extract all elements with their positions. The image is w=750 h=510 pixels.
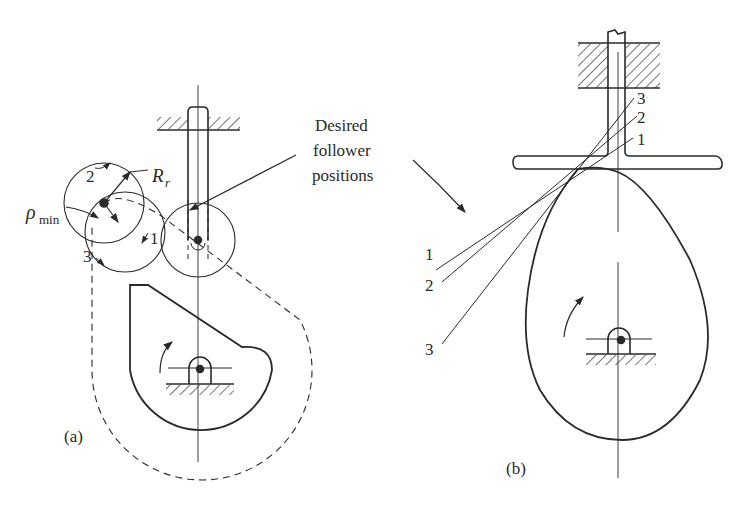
callout-leader-a — [190, 155, 296, 210]
b-left-2: 2 — [425, 276, 434, 295]
cam-pivot-b — [586, 328, 656, 365]
cam-follower-diagram: Desired follower positions (a) (b) ρ min… — [0, 0, 750, 510]
pos3-label-a: 3 — [83, 247, 92, 266]
roller-pin — [195, 237, 202, 244]
callout-line-1: Desired — [315, 116, 368, 135]
callout-line-2: follower — [313, 141, 371, 160]
pos1-label-a: 1 — [150, 229, 159, 248]
panel-a-label: (a) — [64, 427, 83, 446]
b-right-1: 1 — [637, 130, 646, 149]
rho-symbol: ρ — [25, 201, 36, 224]
tangent-line-3 — [442, 98, 634, 344]
b-right-3: 3 — [637, 89, 646, 108]
tangent-line-2 — [442, 116, 637, 282]
rr-subscript: r — [165, 175, 171, 190]
follower-guide-b — [578, 43, 660, 88]
tangent-line-1 — [436, 138, 633, 270]
rotation-arrow-b — [564, 297, 583, 337]
pos2-label-a: 2 — [86, 167, 95, 186]
panel-b-label: (b) — [506, 459, 526, 478]
callout-line-3: positions — [312, 166, 373, 185]
panel-a — [64, 85, 465, 480]
panel-b — [436, 30, 722, 478]
cam-pivot-a — [166, 357, 234, 395]
b-right-2: 2 — [637, 108, 646, 127]
callout-leader-b — [413, 160, 465, 212]
cam-profile-b — [526, 168, 708, 440]
rr-symbol: R — [151, 165, 164, 186]
rho-subscript: min — [39, 212, 60, 227]
b-left-3: 3 — [425, 340, 434, 359]
follower-guide-a — [157, 117, 240, 130]
b-left-1: 1 — [425, 245, 434, 264]
